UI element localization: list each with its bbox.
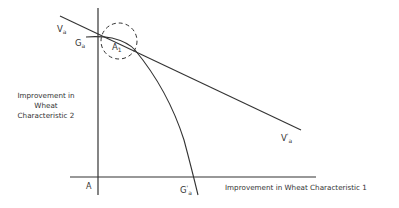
y-axis-label: Improvement in Wheat Characteristic 2 [4,91,88,121]
ga-prime-label: G'a [180,185,192,196]
tangency-highlight-circle [101,23,137,59]
value-line [60,16,301,130]
frontier-curve [86,37,198,195]
origin-label: A [86,183,91,191]
va-label: Va [57,25,67,35]
y-axis-label-line-3: Characteristic 2 [4,111,88,121]
x-axis-label: Improvement in Wheat Characteristic 1 [225,183,367,192]
va-prime-label: V'a [281,133,292,144]
y-axis-label-line-1: Improvement in [4,91,88,101]
a1-label: A1 [112,43,122,53]
y-axis-label-line-2: Wheat [4,101,88,111]
ga-label: Ga [75,39,85,49]
